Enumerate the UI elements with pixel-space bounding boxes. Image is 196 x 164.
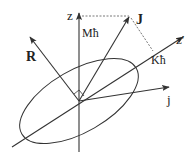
label-k-hbar: Kħ [151, 53, 166, 67]
label-m-hbar: Mħ [82, 26, 99, 40]
label-j-small: j [166, 92, 171, 107]
label-r: R [26, 49, 37, 64]
label-z: z [67, 8, 73, 23]
r-vector [30, 37, 79, 101]
label-j-total: J [136, 12, 143, 27]
label-z-prime: z′ [176, 32, 185, 47]
angular-momentum-diagram: z Mħ J z′ Kħ R j [0, 0, 196, 164]
j-vector-small [79, 87, 169, 101]
